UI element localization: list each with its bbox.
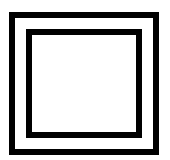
inner-square — [26, 29, 142, 138]
